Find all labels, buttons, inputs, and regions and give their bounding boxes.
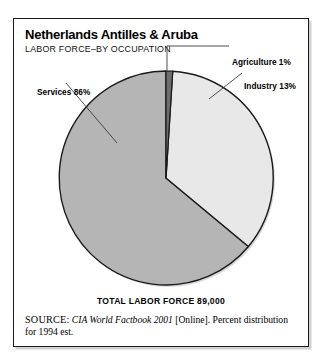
pie-label-agriculture: Agriculture 1%	[232, 57, 291, 67]
figure-heading: Netherlands Antilles & Aruba LABOR FORCE…	[25, 27, 275, 55]
pie-label-services: Services 86%	[37, 87, 90, 97]
source-kicker: SOURCE:	[25, 314, 69, 325]
leader-line-industry	[209, 73, 242, 99]
pie-label-industry: Industry 13%	[244, 81, 296, 91]
source-note: SOURCE: CIA World Factbook 2001 [Online]…	[25, 314, 297, 337]
pie-slice-services	[59, 71, 248, 285]
total-labor-force-label: TOTAL LABOR FORCE 89,000	[21, 296, 300, 306]
page-title: Netherlands Antilles & Aruba	[25, 27, 265, 42]
pie-slice-agriculture	[166, 71, 173, 178]
pie-shadow	[61, 73, 275, 287]
figure-panel: Netherlands Antilles & Aruba LABOR FORCE…	[13, 18, 309, 347]
chart-subtitle: LABOR FORCE–BY OCCUPATION	[25, 44, 263, 55]
source-title: CIA World Factbook 2001	[72, 314, 173, 325]
pie-slice-industry	[166, 71, 273, 246]
